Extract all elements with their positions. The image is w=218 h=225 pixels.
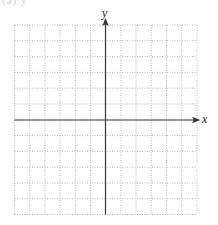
y-axis-label: y: [101, 6, 108, 20]
x-axis-label: x: [201, 112, 208, 126]
coordinate-plane: x y: [0, 0, 218, 225]
